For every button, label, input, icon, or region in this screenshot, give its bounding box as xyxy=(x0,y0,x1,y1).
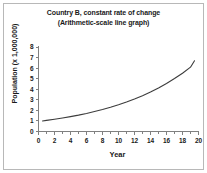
y-tick-label: 8 xyxy=(30,43,34,50)
y-tick-group: 012345678 xyxy=(30,43,39,134)
data-series-line xyxy=(43,61,195,121)
y-tick-label: 6 xyxy=(30,65,34,72)
x-tick-label: 14 xyxy=(147,137,155,144)
y-tick-label: 3 xyxy=(30,96,34,103)
x-tick-label: 6 xyxy=(85,137,89,144)
x-tick-label: 0 xyxy=(37,137,41,144)
y-tick-label: 2 xyxy=(30,107,34,114)
y-tick-label: 0 xyxy=(30,128,34,135)
y-tick-label: 7 xyxy=(30,54,34,61)
x-tick-label: 18 xyxy=(179,137,187,144)
x-tick-label: 2 xyxy=(53,137,57,144)
y-tick-label: 5 xyxy=(30,75,34,82)
chart-figure: Country B, constant rate of change (Arit… xyxy=(0,0,207,173)
x-tick-label: 10 xyxy=(115,137,123,144)
plot-area: 012345678 02468101214161820 xyxy=(0,0,207,173)
x-tick-label: 4 xyxy=(69,137,73,144)
y-tick-label: 1 xyxy=(30,117,34,124)
x-tick-group: 02468101214161820 xyxy=(37,132,203,144)
x-tick-label: 20 xyxy=(195,137,203,144)
x-tick-label: 12 xyxy=(131,137,139,144)
x-tick-label: 16 xyxy=(163,137,171,144)
y-tick-label: 4 xyxy=(30,86,34,93)
x-tick-label: 8 xyxy=(101,137,105,144)
